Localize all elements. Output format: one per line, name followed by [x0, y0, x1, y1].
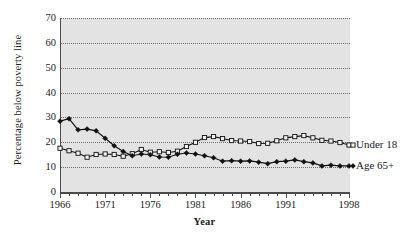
data-point-marker-open-square [211, 134, 215, 138]
data-point-marker-filled-diamond [247, 158, 252, 163]
legend-marker-open-square [351, 143, 355, 147]
data-point-marker-filled-diamond [211, 155, 216, 160]
data-point-marker-open-square [193, 140, 197, 144]
series-line [60, 119, 349, 166]
legend-label-under-18: Under 18 [356, 138, 397, 150]
data-point-marker-filled-diamond [274, 159, 279, 164]
data-point-marker-filled-diamond [193, 151, 198, 156]
data-point-marker-open-square [338, 140, 342, 144]
data-point-marker-open-square [302, 133, 306, 137]
data-point-marker-filled-diamond [283, 159, 288, 164]
data-point-marker-open-square [94, 152, 98, 156]
legend-label-age-65-plus: Age 65+ [356, 159, 394, 171]
data-point-marker-open-square [329, 139, 333, 143]
data-point-marker-filled-diamond [337, 163, 342, 168]
data-point-marker-filled-diamond [220, 159, 225, 164]
data-point-marker-open-square [320, 138, 324, 142]
data-point-marker-filled-diamond [58, 119, 63, 124]
data-point-marker-open-square [121, 154, 125, 158]
data-point-marker-filled-diamond [319, 163, 324, 168]
series-age-65-plus [58, 116, 356, 168]
data-point-marker-filled-diamond [202, 153, 207, 158]
series-layer [0, 0, 408, 240]
poverty-line-chart: Percentage below poverty line 0102030405… [0, 0, 408, 240]
data-point-marker-open-square [112, 152, 116, 156]
data-point-marker-filled-diamond [328, 163, 333, 168]
data-point-marker-filled-diamond [166, 155, 171, 160]
data-point-marker-filled-diamond [301, 159, 306, 164]
data-point-marker-open-square [67, 149, 71, 153]
data-point-marker-open-square [275, 139, 279, 143]
data-point-marker-open-square [248, 139, 252, 143]
data-point-marker-open-square [157, 150, 161, 154]
data-point-marker-open-square [311, 136, 315, 140]
data-point-marker-open-square [284, 136, 288, 140]
data-point-marker-filled-diamond [157, 154, 162, 159]
data-point-marker-open-square [293, 134, 297, 138]
legend-marker-filled-diamond [351, 163, 356, 168]
data-point-marker-filled-diamond [292, 157, 297, 162]
data-point-marker-filled-diamond [310, 160, 315, 165]
data-point-marker-filled-diamond [238, 159, 243, 164]
data-point-marker-open-square [166, 150, 170, 154]
data-point-marker-filled-diamond [229, 158, 234, 163]
x-axis-title: Year [60, 216, 349, 227]
data-point-marker-filled-diamond [85, 127, 90, 132]
data-point-marker-filled-diamond [139, 151, 144, 156]
data-point-marker-open-square [220, 136, 224, 140]
data-point-marker-open-square [85, 155, 89, 159]
data-point-marker-filled-diamond [265, 161, 270, 166]
data-point-marker-open-square [58, 146, 62, 150]
data-point-marker-filled-diamond [184, 150, 189, 155]
data-point-marker-open-square [229, 138, 233, 142]
data-point-marker-open-square [139, 147, 143, 151]
data-point-marker-open-square [103, 152, 107, 156]
data-point-marker-open-square [76, 151, 80, 155]
data-point-marker-open-square [184, 144, 188, 148]
data-point-marker-open-square [239, 139, 243, 143]
data-point-marker-filled-diamond [256, 160, 261, 165]
data-point-marker-open-square [202, 135, 206, 139]
data-point-marker-open-square [257, 141, 261, 145]
data-point-marker-open-square [266, 141, 270, 145]
